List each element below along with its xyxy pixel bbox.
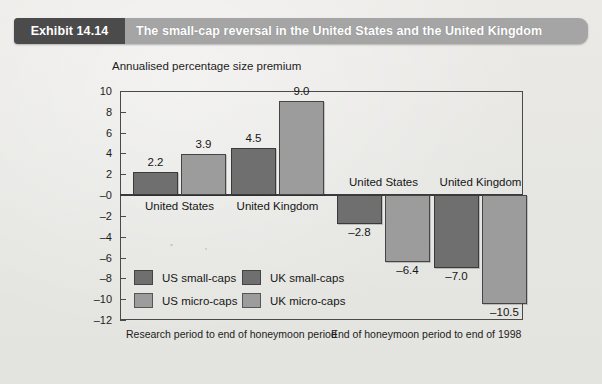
y-axis-title: Annualised percentage size premium <box>112 60 301 72</box>
legend-item-uk-micro-caps[interactable]: UK micro-caps <box>242 293 345 308</box>
y-tick-label: 10 <box>86 85 112 97</box>
legend-item-uk-small-caps[interactable]: UK small-caps <box>242 270 344 285</box>
bar-us-micro-caps-0 <box>181 154 226 195</box>
y-tick-mark <box>120 320 126 321</box>
legend-swatch-icon <box>134 293 153 308</box>
bar-value-label: 4.5 <box>225 132 282 144</box>
chart-container: Annualised percentage size premium 10864… <box>0 48 602 384</box>
exhibit-number-tag: Exhibit 14.14 <box>14 18 125 44</box>
y-tick-mark <box>120 237 126 238</box>
y-tick-label: –0 <box>86 189 112 201</box>
bar-us-micro-caps-2 <box>385 195 430 262</box>
y-tick-mark <box>120 133 126 134</box>
bar-value-label: 2.2 <box>127 156 184 168</box>
legend-label: US micro-caps <box>162 295 237 307</box>
legend-label: US small-caps <box>162 272 236 284</box>
group-label-1: United Kingdom <box>217 200 338 212</box>
bar-us-small-caps-0 <box>133 172 178 195</box>
bar-value-label: –7.0 <box>428 270 485 282</box>
bar-uk-micro-caps-3 <box>482 195 527 304</box>
exhibit-title: The small-cap reversal in the United Sta… <box>136 18 542 44</box>
bar-value-label: 9.0 <box>273 85 330 97</box>
y-tick-label: –4 <box>86 231 112 243</box>
chart-legend: US small-capsUS micro-capsUK small-capsU… <box>134 270 364 314</box>
legend-label: UK small-caps <box>270 272 344 284</box>
legend-swatch-icon <box>242 270 261 285</box>
y-tick-mark <box>120 216 126 217</box>
y-tick-label: 2 <box>86 168 112 180</box>
y-tick-mark <box>120 174 126 175</box>
bar-value-label: 3.9 <box>175 138 232 150</box>
y-tick-mark <box>120 91 126 92</box>
legend-swatch-icon <box>134 270 153 285</box>
y-tick-label: –6 <box>86 252 112 264</box>
y-tick-label: –10 <box>86 293 112 305</box>
y-tick-label: 6 <box>86 127 112 139</box>
y-tick-mark <box>120 153 126 154</box>
y-tick-label: –12 <box>86 314 112 326</box>
y-tick-label: –2 <box>86 210 112 222</box>
y-tick-label: 4 <box>86 147 112 159</box>
legend-label: UK micro-caps <box>270 295 345 307</box>
scan-speck <box>205 248 207 250</box>
bar-us-small-caps-2 <box>337 195 382 224</box>
legend-swatch-icon <box>242 293 261 308</box>
y-tick-label: –8 <box>86 272 112 284</box>
exhibit-header: Exhibit 14.14 The small-cap reversal in … <box>14 18 588 44</box>
period-label-right: End of honeymoon period to end of 1998 <box>331 328 521 340</box>
period-label-left: Research period to end of honeymoon peri… <box>126 328 337 340</box>
bar-uk-small-caps-3 <box>434 195 479 268</box>
legend-item-us-micro-caps[interactable]: US micro-caps <box>134 293 237 308</box>
group-label-3: United Kingdom <box>420 176 541 188</box>
bar-uk-micro-caps-1 <box>279 101 324 195</box>
bar-value-label: –10.5 <box>476 306 533 318</box>
y-tick-label: 8 <box>86 106 112 118</box>
legend-item-us-small-caps[interactable]: US small-caps <box>134 270 236 285</box>
bar-uk-small-caps-1 <box>231 148 276 195</box>
scan-speck <box>170 244 173 246</box>
y-tick-mark <box>120 258 126 259</box>
y-tick-mark <box>120 299 126 300</box>
bar-value-label: –2.8 <box>331 226 388 238</box>
y-tick-mark <box>120 278 126 279</box>
y-tick-mark <box>120 112 126 113</box>
